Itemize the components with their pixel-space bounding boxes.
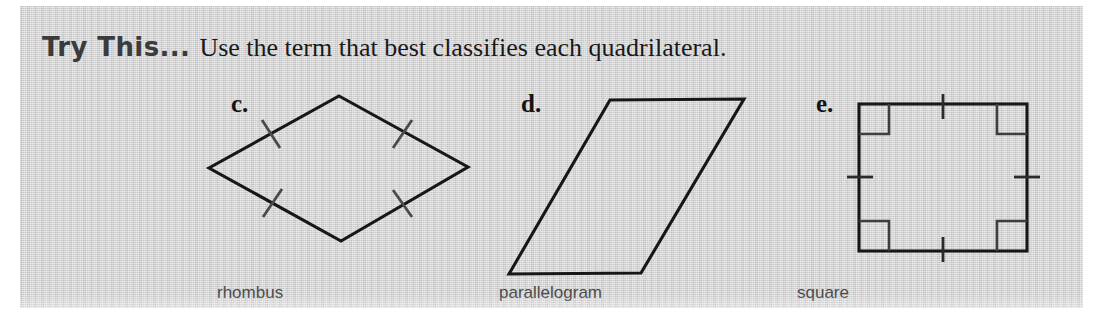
answer-caption-square: square	[797, 283, 849, 303]
figure-square	[847, 94, 1040, 262]
exercise-panel: Try This...Use the term that best classi…	[20, 6, 1083, 308]
rhombus-tick-bottom-right	[393, 190, 412, 217]
rhombus-tick-top-right	[393, 120, 412, 148]
square-right-angle-bottom-right	[997, 221, 1027, 251]
answer-caption-parallelogram: parallelogram	[499, 283, 602, 303]
worksheet-page: Try This...Use the term that best classi…	[0, 0, 1098, 331]
figure-letter-e: e.	[816, 90, 833, 118]
rhombus-tick-top-left	[262, 120, 280, 148]
square-right-angle-top-right	[997, 104, 1027, 134]
square-right-angle-top-left	[859, 104, 889, 134]
square-outline	[859, 104, 1027, 251]
rhombus-tick-bottom-left	[263, 189, 282, 217]
square-right-angle-bottom-left	[859, 221, 889, 251]
exercise-heading: Try This...Use the term that best classi…	[42, 32, 726, 63]
instruction-text: Use the term that best classifies each q…	[199, 33, 726, 62]
try-this-callout: Try This...	[42, 32, 190, 62]
answer-caption-rhombus: rhombus	[217, 283, 283, 303]
figure-letter-d: d.	[521, 90, 541, 118]
parallelogram-outline	[509, 99, 744, 274]
figure-parallelogram	[509, 99, 744, 274]
figure-letter-c: c.	[231, 90, 248, 118]
